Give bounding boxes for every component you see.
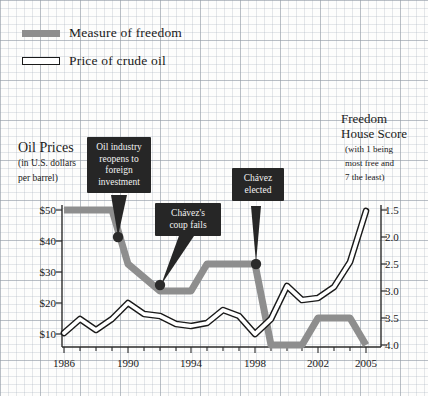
annotation-line: Oil industry xyxy=(93,142,145,154)
marker-chavez-elected xyxy=(251,259,261,269)
axis-spines xyxy=(62,205,381,347)
callout-tail-elected xyxy=(251,206,261,263)
marker-oil-industry-reopens xyxy=(113,232,123,242)
x-axis-ticks xyxy=(64,347,366,353)
annotation-line: coup fails xyxy=(161,220,215,232)
chart-figure: Measure of freedom Price of crude oil Oi… xyxy=(0,0,428,396)
annotation-line: Chávez xyxy=(238,173,278,185)
callout-tail-coup xyxy=(161,233,196,285)
annotation-chavez-elected: Chávez elected xyxy=(232,168,284,201)
annotation-line: reopens to xyxy=(93,154,145,166)
annotation-line: investment xyxy=(93,177,145,189)
left-axis-ticks xyxy=(56,210,62,334)
annotation-line: elected xyxy=(238,185,278,197)
plot-area xyxy=(0,0,428,396)
right-axis-ticks xyxy=(381,210,387,345)
marker-chavez-coup-fails xyxy=(155,280,165,290)
annotation-chavez-coup-fails: Chávez's coup fails xyxy=(155,203,221,236)
annotation-line: foreign xyxy=(93,165,145,177)
annotation-line: Chávez's xyxy=(161,208,215,220)
annotation-oil-industry-reopens: Oil industry reopens to foreign investme… xyxy=(87,137,151,193)
